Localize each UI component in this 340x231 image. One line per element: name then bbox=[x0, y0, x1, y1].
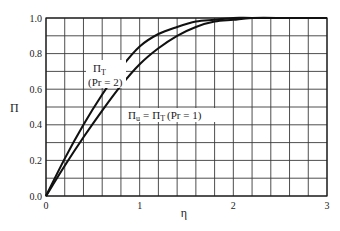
annotation-pr2-label: (Pr = 2) bbox=[88, 76, 123, 89]
x-axis-label: η bbox=[181, 206, 187, 220]
x-tick-label: 3 bbox=[325, 200, 330, 211]
grid-lines bbox=[46, 18, 327, 196]
y-tick-label: 0.2 bbox=[30, 155, 43, 166]
y-tick-label: 0.4 bbox=[30, 119, 43, 130]
y-tick-label: 0.0 bbox=[30, 191, 43, 202]
y-tick-label: 1.0 bbox=[30, 13, 43, 24]
x-tick-label: 2 bbox=[231, 200, 236, 211]
y-tick-label: 0.6 bbox=[30, 84, 43, 95]
chart: 0.00.20.40.60.81.0 0123 Π η ΠT (Pr = 2) … bbox=[0, 0, 340, 231]
x-tick-label: 0 bbox=[44, 200, 49, 211]
y-tick-labels: 0.00.20.40.60.81.0 bbox=[30, 13, 43, 202]
x-tick-label: 1 bbox=[137, 200, 142, 211]
y-tick-label: 0.8 bbox=[30, 48, 43, 59]
y-axis-label: Π bbox=[10, 101, 19, 115]
